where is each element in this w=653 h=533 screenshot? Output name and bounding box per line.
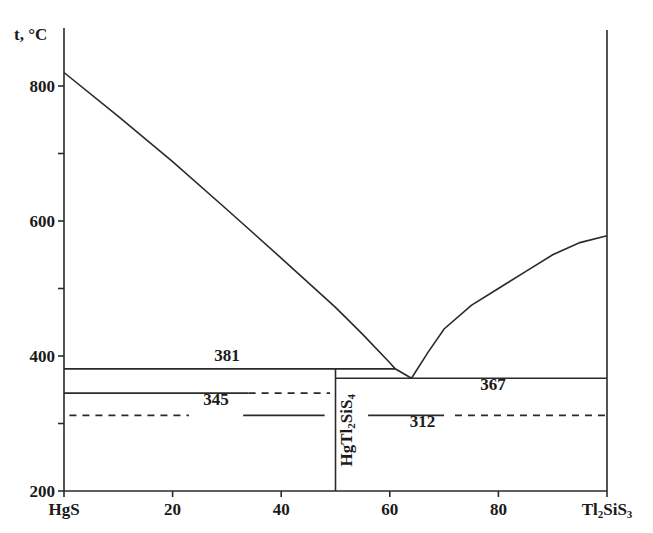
liquidus-curve <box>64 73 412 379</box>
labels-group: 200400600800t, °CHgS20406080Tl2SiS338136… <box>14 25 633 520</box>
temperature-annotation: 345 <box>203 390 229 409</box>
x-tick-label: 20 <box>164 500 181 519</box>
x-left-endmember-label: HgS <box>48 500 79 519</box>
y-tick-label: 800 <box>30 77 56 96</box>
temperature-annotation: 367 <box>480 375 506 394</box>
x-tick-label: 60 <box>381 500 398 519</box>
y-tick-label: 400 <box>30 347 56 366</box>
temperature-annotation: 381 <box>214 346 240 365</box>
y-tick-label: 600 <box>30 212 56 231</box>
temperature-annotation: 312 <box>410 412 436 431</box>
x-tick-label: 80 <box>490 500 507 519</box>
y-axis-title: t, °C <box>14 25 47 44</box>
x-tick-label: 40 <box>273 500 290 519</box>
liquidus-curve <box>412 236 608 378</box>
y-tick-label: 200 <box>30 482 56 501</box>
compound-label: HgTl2SiS4 <box>337 394 357 467</box>
series-group <box>64 73 607 492</box>
axes <box>58 28 607 497</box>
x-right-endmember-label: Tl2SiS3 <box>582 500 633 520</box>
phase-diagram: 200400600800t, °CHgS20406080Tl2SiS338136… <box>0 0 653 533</box>
